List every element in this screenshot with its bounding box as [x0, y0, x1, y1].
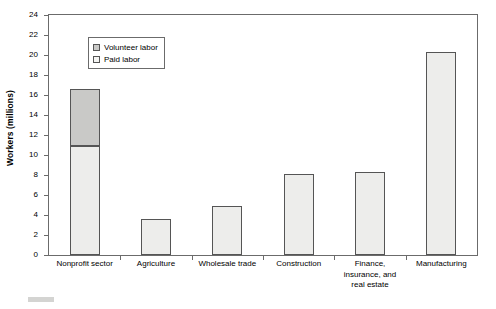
bar[interactable]	[70, 89, 100, 255]
y-axis-tick-label: 0	[34, 249, 38, 260]
y-axis-tick-label: 16	[29, 89, 38, 100]
bar-group	[406, 15, 477, 255]
y-axis-tick-label: 20	[29, 49, 38, 60]
legend-swatch-icon-volunteer	[93, 44, 100, 51]
bar[interactable]	[141, 219, 171, 255]
legend-item-paid-labor: Paid labor	[93, 53, 158, 65]
bar-group	[334, 15, 405, 255]
x-axis-label: Manufacturing	[406, 259, 477, 270]
bar[interactable]	[426, 52, 456, 255]
bar-segment-paid-labor[interactable]	[141, 219, 171, 255]
bar-segment-paid-labor[interactable]	[70, 146, 100, 255]
y-axis-tick-label: 14	[29, 109, 38, 120]
y-axis-tick-label: 24	[29, 9, 38, 20]
bar-segment-paid-labor[interactable]	[355, 172, 385, 255]
y-axis-ticks: 242220181614121086420	[0, 14, 48, 256]
chart-legend: Volunteer labor Paid labor	[88, 37, 165, 69]
bar-segment-volunteer-labor[interactable]	[70, 89, 100, 146]
x-axis-labels: Nonprofit sectorAgricultureWholesale tra…	[49, 259, 477, 305]
footer-mark	[28, 297, 54, 302]
y-axis-tick-label: 22	[29, 29, 38, 40]
y-axis-tick-label: 12	[29, 129, 38, 140]
bar-chart: Workers (millions) 242220181614121086420…	[0, 0, 496, 309]
bar-group	[192, 15, 263, 255]
bar-segment-paid-labor[interactable]	[212, 206, 242, 255]
x-axis-label: Agriculture	[120, 259, 191, 270]
legend-label-paid: Paid labor	[104, 54, 140, 65]
x-axis-label: Construction	[263, 259, 334, 270]
x-axis-label: Finance, insurance, and real estate	[334, 259, 405, 291]
y-axis-tick-label: 8	[34, 169, 38, 180]
y-axis-tick-label: 2	[34, 229, 38, 240]
legend-item-volunteer-labor: Volunteer labor	[93, 41, 158, 53]
legend-swatch-icon-paid	[93, 56, 100, 63]
x-axis-label: Nonprofit sector	[49, 259, 120, 270]
bar[interactable]	[284, 174, 314, 255]
bar[interactable]	[355, 172, 385, 255]
legend-label-volunteer: Volunteer labor	[104, 42, 158, 53]
y-axis-tick-label: 10	[29, 149, 38, 160]
x-axis-label: Wholesale trade	[192, 259, 263, 270]
bar-segment-paid-labor[interactable]	[284, 174, 314, 255]
bar-segment-paid-labor[interactable]	[426, 52, 456, 255]
y-axis-tick-label: 6	[34, 189, 38, 200]
y-axis-tick-label: 18	[29, 69, 38, 80]
bar[interactable]	[212, 206, 242, 255]
bar-group	[263, 15, 334, 255]
y-axis-tick-label: 4	[34, 209, 38, 220]
